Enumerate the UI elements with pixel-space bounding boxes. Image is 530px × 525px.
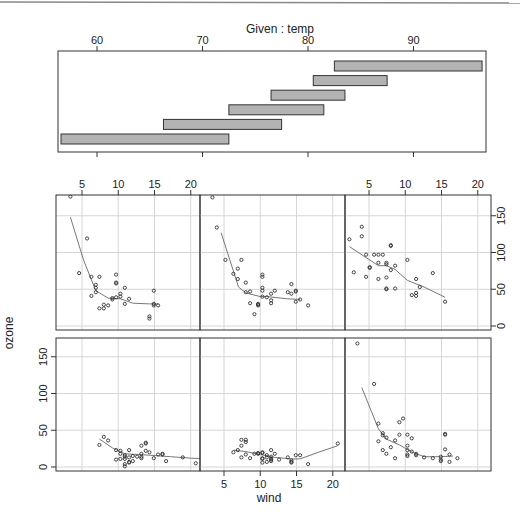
data-point <box>102 303 105 306</box>
data-point <box>194 462 197 465</box>
data-point <box>123 463 126 466</box>
data-point <box>144 449 147 452</box>
data-point <box>131 454 134 457</box>
data-point <box>385 276 388 279</box>
data-point <box>406 258 409 261</box>
data-point <box>98 443 101 446</box>
data-point <box>278 458 281 461</box>
smooth-line <box>99 439 212 459</box>
x-tick-label: 5 <box>366 178 372 190</box>
x-tick-label: 20 <box>472 178 484 190</box>
data-point <box>107 439 110 442</box>
panel-2: 5101520 <box>200 338 345 490</box>
data-point <box>128 449 131 452</box>
y-tick-label: 0 <box>495 323 507 329</box>
y-tick-label: 0 <box>37 464 49 470</box>
panel-grid <box>345 338 491 471</box>
data-point <box>348 238 351 241</box>
data-point <box>102 307 105 310</box>
data-point <box>240 258 243 261</box>
x-tick-label: 20 <box>185 178 197 190</box>
scatter-points <box>98 435 214 468</box>
data-point <box>365 275 368 278</box>
data-point <box>360 225 363 228</box>
x-tick-label: 10 <box>254 478 266 490</box>
given-interval-bar <box>163 119 281 129</box>
data-point <box>78 272 81 275</box>
data-point <box>444 300 447 303</box>
data-point <box>261 273 264 276</box>
data-point <box>244 281 247 284</box>
given-tick-label: 70 <box>196 34 208 46</box>
data-point <box>377 440 380 443</box>
y-tick-label: 150 <box>37 348 49 366</box>
data-point <box>373 382 376 385</box>
data-point <box>377 261 380 264</box>
data-point <box>389 269 392 272</box>
smooth-line <box>362 388 453 457</box>
data-point <box>211 196 214 199</box>
data-point <box>232 451 235 454</box>
data-point <box>299 454 302 457</box>
conditioning-panels: 050100150510152051015205101520050100150 <box>37 178 507 490</box>
panel-5 <box>200 195 345 330</box>
data-point <box>236 277 239 280</box>
data-point <box>290 283 293 286</box>
coplot-figure: Given : temp 60708090 050100150510152051… <box>0 0 530 525</box>
x-tick-label: 5 <box>79 178 85 190</box>
panel-4: 5101520 <box>56 178 200 330</box>
panel-6: 5101520050100150 <box>345 178 507 330</box>
data-point <box>265 460 268 463</box>
y-tick-label: 50 <box>495 283 507 295</box>
data-point <box>444 448 447 451</box>
panel-grid <box>345 195 491 330</box>
data-point <box>136 455 139 458</box>
given-interval-bar <box>229 105 324 115</box>
x-tick-label: 15 <box>435 178 447 190</box>
y-tick-label: 150 <box>495 207 507 225</box>
data-point <box>240 444 243 447</box>
y-axis-label: ozone <box>2 316 16 349</box>
x-tick-label: 15 <box>148 178 160 190</box>
data-point <box>128 297 131 300</box>
panel-grid <box>200 195 345 330</box>
data-point <box>448 453 451 456</box>
data-point <box>381 449 384 452</box>
data-point <box>115 273 118 276</box>
data-point <box>381 253 384 256</box>
data-point <box>398 433 401 436</box>
data-point <box>418 285 421 288</box>
data-point <box>385 452 388 455</box>
data-point <box>244 440 247 443</box>
x-tick-label: 15 <box>290 478 302 490</box>
data-point <box>448 460 451 463</box>
data-point <box>365 253 368 256</box>
data-point <box>410 437 413 440</box>
data-point <box>356 342 359 345</box>
data-point <box>119 457 122 460</box>
page-top-rule <box>0 2 520 3</box>
data-point <box>249 302 252 305</box>
data-point <box>148 317 151 320</box>
panel-grid <box>56 195 200 330</box>
data-point <box>215 226 218 229</box>
data-point <box>90 294 93 297</box>
given-interval-bar <box>61 134 229 144</box>
data-point <box>123 457 126 460</box>
data-point <box>394 457 397 460</box>
data-point <box>389 446 392 449</box>
given-tick-label: 80 <box>302 34 314 46</box>
x-tick-label: 5 <box>221 478 227 490</box>
data-point <box>211 439 214 442</box>
data-point <box>128 456 131 459</box>
data-point <box>410 294 413 297</box>
data-point <box>240 456 243 459</box>
data-point <box>86 237 89 240</box>
given-interval-bar <box>313 76 387 86</box>
data-point <box>131 460 134 463</box>
data-point <box>307 304 310 307</box>
x-tick-label: 10 <box>112 178 124 190</box>
data-point <box>270 292 273 295</box>
x-tick-label: 10 <box>399 178 411 190</box>
y-tick-label: 50 <box>37 424 49 436</box>
